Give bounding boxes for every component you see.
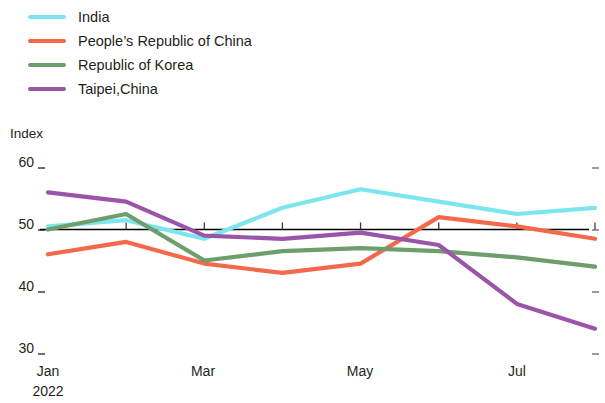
plot-area xyxy=(0,0,605,403)
line-chart: India People’s Republic of China Republi… xyxy=(0,0,605,403)
series-line-people-s-republic-of-china xyxy=(48,217,595,273)
series-layer xyxy=(48,189,595,329)
